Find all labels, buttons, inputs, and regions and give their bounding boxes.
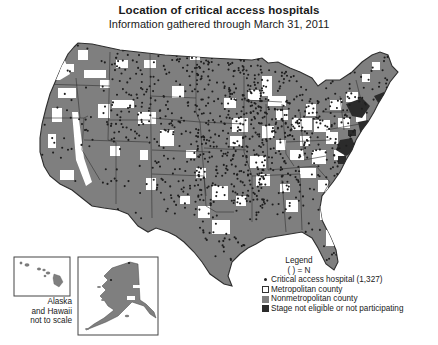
hawaii-inset	[14, 257, 70, 296]
nonmetro-swatch-icon	[262, 296, 269, 303]
not-participating-swatch-icon	[262, 305, 269, 312]
legend-item-critical-access-hospital: Critical access hospital (1,327)	[262, 275, 403, 285]
legend-item-not-participating: Stage not eligible or not participating	[262, 304, 403, 314]
contiguous-us-shape	[40, 43, 398, 286]
insets-scale-note: Alaska and Hawaii not to scale	[2, 297, 72, 326]
map-legend: Legend ( ) = N Critical access hospital …	[262, 256, 403, 314]
alaska-inset	[78, 257, 158, 335]
hospital-dot-icon	[262, 276, 269, 283]
legend-title: Legend	[274, 256, 324, 266]
metro-swatch-icon	[262, 286, 269, 293]
legend-item-metropolitan-county: Metropolitan county	[262, 285, 403, 295]
legend-item-nonmetropolitan-county: Nonmetropolitan county	[262, 294, 403, 304]
legend-note: ( ) = N	[274, 266, 324, 276]
